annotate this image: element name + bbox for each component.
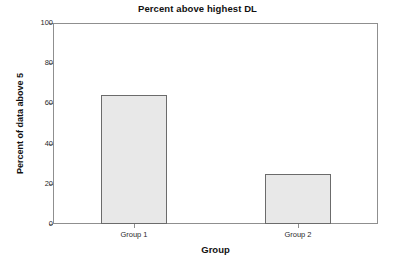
y-tick-label: 100	[27, 17, 53, 29]
chart-title: Percent above highest DL	[0, 3, 395, 15]
bar	[101, 95, 167, 224]
x-tick-label: Group 1	[89, 229, 179, 240]
bar-chart-figure: Percent above highest DL Percent of data…	[0, 0, 395, 264]
y-tick-label: 60	[27, 97, 53, 109]
y-tick-label: 0	[27, 218, 53, 230]
y-tick-label: 40	[27, 138, 53, 150]
x-tick-label: Group 2	[253, 229, 343, 240]
x-axis-title: Group	[53, 243, 378, 256]
bar	[265, 174, 331, 224]
y-axis-title: Percent of data above 5	[13, 23, 27, 224]
y-tick-label: 20	[27, 178, 53, 190]
x-tick-mark	[134, 224, 135, 228]
x-tick-mark	[298, 224, 299, 228]
y-tick-label: 80	[27, 57, 53, 69]
